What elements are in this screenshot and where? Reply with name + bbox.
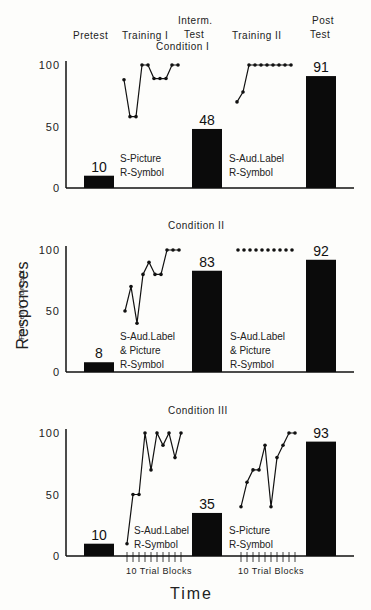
y-tick-label: 50 xyxy=(46,489,60,501)
bar-value-label: 10 xyxy=(91,527,107,543)
data-point xyxy=(239,505,243,509)
data-point xyxy=(257,468,261,472)
training-line xyxy=(124,65,178,117)
data-point xyxy=(236,248,240,252)
data-point xyxy=(293,431,297,435)
chart-canvas: 050100104891S-PictureR-SymbolS-Aud.Label… xyxy=(0,0,371,610)
y-tick-label: 100 xyxy=(39,244,60,256)
data-point xyxy=(266,248,270,252)
bar-value-label: 83 xyxy=(199,254,215,270)
data-point xyxy=(260,248,264,252)
y-tick-label: 100 xyxy=(39,427,60,439)
y-tick-label: 100 xyxy=(39,59,60,71)
data-point xyxy=(289,63,293,67)
data-point xyxy=(179,431,183,435)
bar-value-label: 35 xyxy=(199,496,215,512)
data-point xyxy=(146,63,150,67)
data-point xyxy=(128,115,132,119)
bar-value-label: 93 xyxy=(313,425,329,441)
bar-post-test xyxy=(306,442,336,556)
condition-label: S-Aud.Label xyxy=(134,525,189,536)
y-tick-label: 50 xyxy=(46,121,60,133)
data-point xyxy=(177,248,181,252)
condition-label: S-Aud.Label xyxy=(230,331,285,342)
training-line xyxy=(125,250,179,323)
bar-value-label: 8 xyxy=(95,345,103,361)
data-point xyxy=(263,444,267,448)
y-tick-label: 50 xyxy=(46,305,60,317)
data-point xyxy=(242,248,246,252)
data-point xyxy=(284,248,288,252)
bar-interm-test xyxy=(192,271,222,372)
bar-value-label: 91 xyxy=(313,59,329,75)
condition-label: S-Aud.Label xyxy=(120,331,175,342)
data-point xyxy=(290,248,294,252)
training-line xyxy=(237,65,291,102)
data-point xyxy=(158,77,162,81)
data-point xyxy=(277,63,281,67)
data-point xyxy=(254,248,258,252)
data-point xyxy=(271,63,275,67)
data-point xyxy=(149,468,153,472)
data-point xyxy=(147,260,151,264)
bar-interm-test xyxy=(192,129,222,188)
data-point xyxy=(247,63,251,67)
bar-interm-test xyxy=(192,513,222,556)
data-point xyxy=(155,431,159,435)
data-point xyxy=(245,480,249,484)
condition-label: R-Symbol xyxy=(230,359,274,370)
data-point xyxy=(161,444,165,448)
data-point xyxy=(248,248,252,252)
bar-pretest xyxy=(84,362,114,372)
data-point xyxy=(123,309,127,313)
data-point xyxy=(125,542,129,546)
condition-label: S-Picture xyxy=(120,153,162,164)
data-point xyxy=(265,63,269,67)
data-point xyxy=(152,77,156,81)
data-point xyxy=(269,505,273,509)
data-point xyxy=(173,456,177,460)
condition-label: S-Aud.Label xyxy=(229,153,284,164)
bar-value-label: 92 xyxy=(313,243,329,259)
data-point xyxy=(167,431,171,435)
data-point xyxy=(141,273,145,277)
condition-label: R-Symbol xyxy=(120,167,164,178)
data-point xyxy=(171,248,175,252)
data-point xyxy=(129,285,133,289)
data-point xyxy=(134,115,138,119)
data-point xyxy=(153,273,157,277)
data-point xyxy=(165,248,169,252)
y-tick-label: 0 xyxy=(53,366,60,378)
bar-pretest xyxy=(84,176,114,188)
data-point xyxy=(143,431,147,435)
data-point xyxy=(135,321,139,325)
condition-label: R-Symbol xyxy=(229,167,273,178)
bar-value-label: 10 xyxy=(91,159,107,175)
data-point xyxy=(140,63,144,67)
condition-label: R-Symbol xyxy=(134,539,178,550)
data-point xyxy=(122,78,126,82)
y-tick-label: 0 xyxy=(53,550,60,562)
bar-post-test xyxy=(306,76,336,188)
data-point xyxy=(170,63,174,67)
data-point xyxy=(283,63,287,67)
condition-label: R-Symbol xyxy=(120,359,164,370)
condition-label: R-Symbol xyxy=(229,539,273,550)
bar-value-label: 48 xyxy=(199,112,215,128)
condition-label: S-Picture xyxy=(229,525,271,536)
condition-label: & Picture xyxy=(120,345,161,356)
bar-pretest xyxy=(84,544,114,556)
data-point xyxy=(253,63,257,67)
data-point xyxy=(176,63,180,67)
data-point xyxy=(137,493,141,497)
bar-post-test xyxy=(306,260,336,372)
y-tick-label: 0 xyxy=(53,182,60,194)
training-line xyxy=(241,433,295,507)
data-point xyxy=(287,431,291,435)
condition-label: & Picture xyxy=(230,345,271,356)
data-point xyxy=(272,248,276,252)
data-point xyxy=(164,77,168,81)
data-point xyxy=(275,456,279,460)
data-point xyxy=(241,90,245,94)
data-point xyxy=(278,248,282,252)
